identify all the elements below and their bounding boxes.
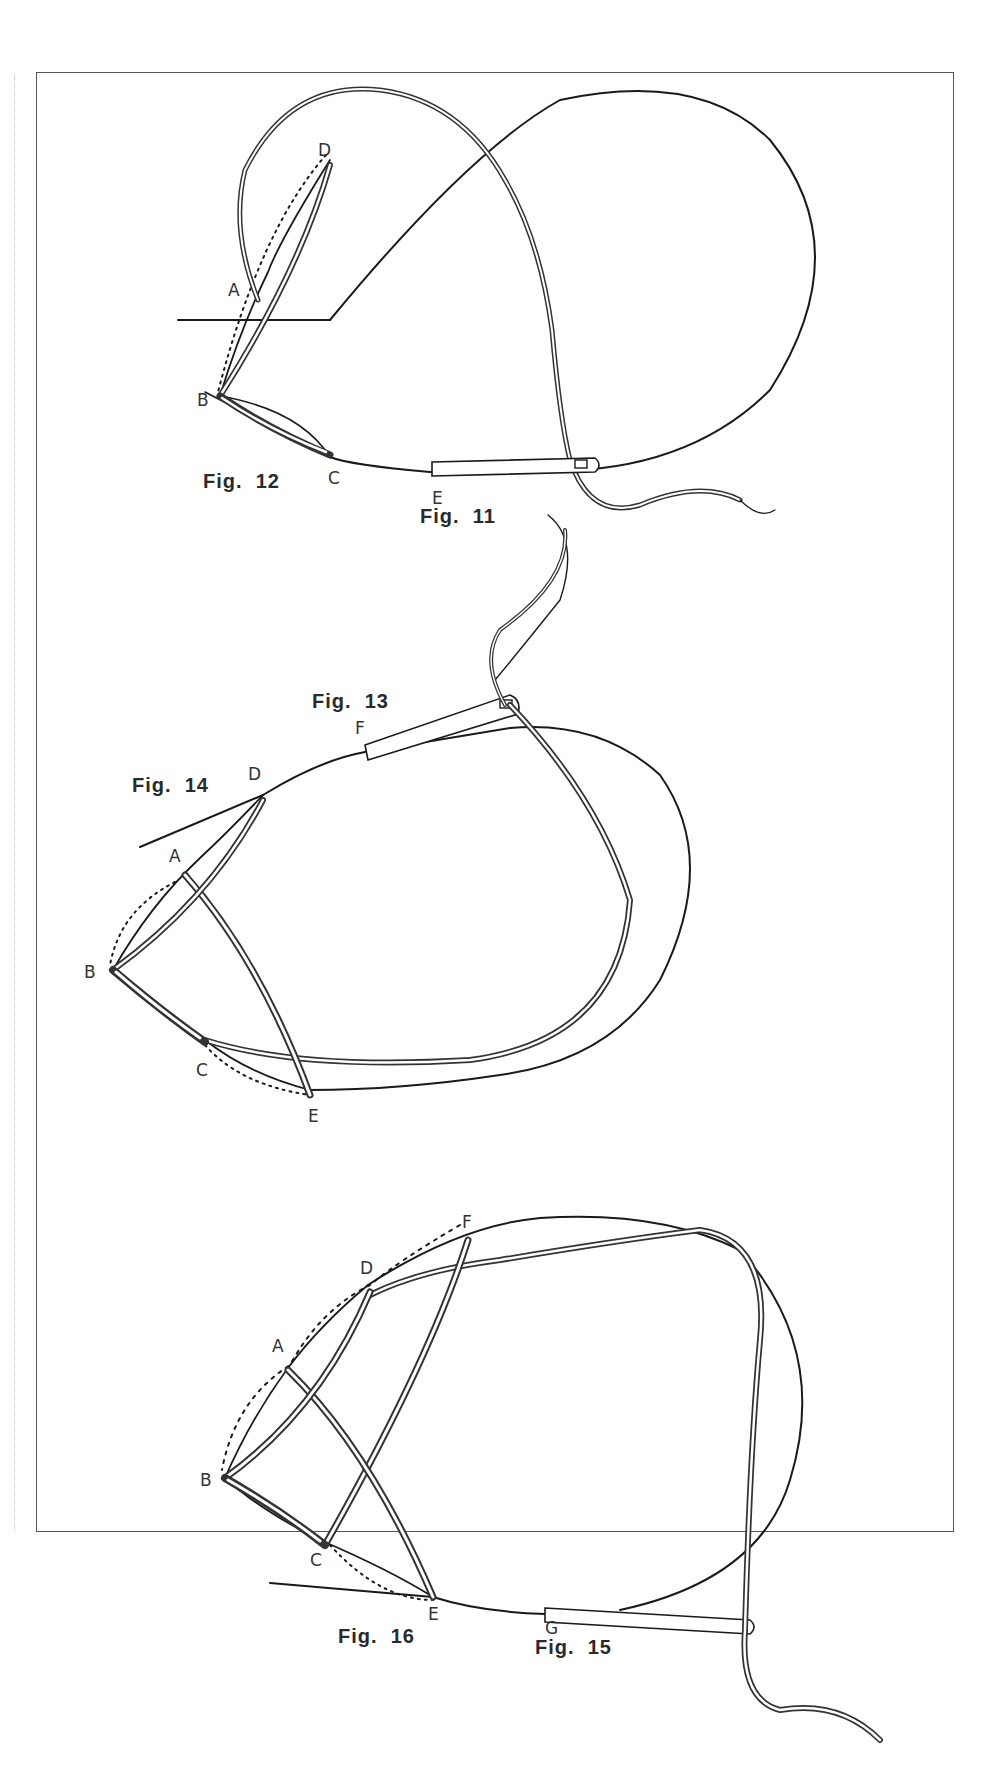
point-label-a: A xyxy=(169,846,181,866)
point-label-f: F xyxy=(462,1212,472,1232)
figure-label-12: Fig. 12 xyxy=(203,470,280,493)
point-label-c: C xyxy=(196,1060,208,1080)
figure-label-15: Fig. 15 xyxy=(535,1636,612,1659)
point-label-f: F xyxy=(355,718,365,738)
point-label-e: E xyxy=(308,1106,319,1126)
point-label-c: C xyxy=(310,1550,322,1570)
point-label-b: B xyxy=(84,962,96,982)
point-label-a: A xyxy=(272,1336,284,1356)
point-label-a: A xyxy=(228,280,240,300)
top-diagram xyxy=(178,89,815,680)
figure-label-14: Fig. 14 xyxy=(132,774,209,797)
figure-label-16: Fig. 16 xyxy=(338,1625,415,1648)
bottom-diagram xyxy=(222,1217,880,1740)
point-label-c: C xyxy=(328,468,340,488)
point-label-d: D xyxy=(318,140,331,160)
point-label-d: D xyxy=(360,1258,373,1278)
figure-label-11: Fig. 11 xyxy=(420,505,496,528)
point-label-g: G xyxy=(545,1618,558,1638)
stitch-illustrations xyxy=(0,0,981,1783)
figure-label-13: Fig. 13 xyxy=(312,690,389,713)
middle-diagram xyxy=(110,530,690,1095)
point-label-b: B xyxy=(200,1470,212,1490)
point-label-b: B xyxy=(197,390,209,410)
point-label-e: E xyxy=(432,488,443,508)
point-label-e: E xyxy=(428,1604,439,1624)
point-label-d: D xyxy=(248,764,261,784)
